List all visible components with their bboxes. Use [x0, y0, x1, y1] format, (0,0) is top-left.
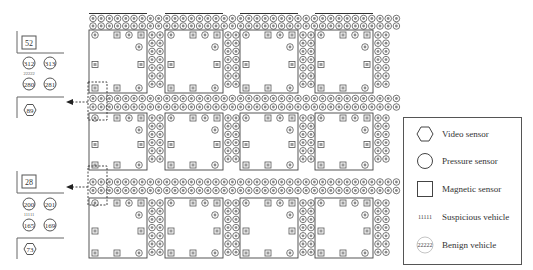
legend-label: Suspicious vehicle	[442, 212, 509, 222]
benign-vehicle-icon: 22222	[410, 235, 440, 255]
pressure-sensor-id: 165	[24, 222, 35, 230]
pressure-sensor-id: 200	[24, 201, 35, 209]
legend-item-magnetic: Magnetic sensor	[404, 179, 521, 199]
detail-bottom: 28 200 201 11111 165 169 73	[17, 171, 64, 259]
magnetic-sensor-id: 28	[25, 178, 33, 187]
pressure-sensor-id: 201	[45, 201, 56, 209]
circle-icon	[410, 151, 440, 171]
pressure-sensor-id: 169	[45, 222, 56, 230]
legend-item-pressure: Pressure sensor	[404, 151, 521, 171]
magnetic-sensor-id: 52	[25, 39, 33, 48]
hexagon-icon	[410, 124, 440, 144]
pressure-sensor-id: 312	[24, 60, 35, 68]
legend-item-video: Video sensor	[404, 124, 521, 144]
video-sensor-id: 89	[27, 107, 35, 115]
legend: Video sensor Pressure sensor Magnetic se…	[403, 117, 522, 265]
vehicle-tag: 22222	[23, 71, 34, 76]
video-sensor-id: 73	[27, 246, 35, 254]
benign-vehicle-glyph: 22222	[418, 242, 433, 248]
suspicious-vehicle-glyph: 11111	[410, 207, 440, 227]
square-icon	[410, 179, 440, 199]
legend-label: Video sensor	[442, 129, 489, 139]
legend-label: Pressure sensor	[442, 156, 498, 166]
vehicle-tag: 11111	[24, 212, 35, 217]
detail-top: 52 312 313 22222 280 281 89	[17, 31, 64, 118]
sensor-grid-diagram: 52 312 313 22222 280 281 89 28	[0, 0, 533, 270]
pressure-sensor-id: 313	[45, 60, 56, 68]
zoom-detail-panel: 52 312 313 22222 280 281 89 28	[0, 0, 88, 270]
legend-label: Magnetic sensor	[442, 184, 501, 194]
pressure-sensor-id: 280	[24, 81, 35, 89]
legend-item-benign: 22222 Benign vehicle	[404, 235, 521, 255]
legend-label: Benign vehicle	[442, 240, 496, 250]
pressure-sensor-id: 281	[45, 81, 56, 89]
legend-item-suspicious: 11111 Suspicious vehicle	[404, 207, 521, 227]
